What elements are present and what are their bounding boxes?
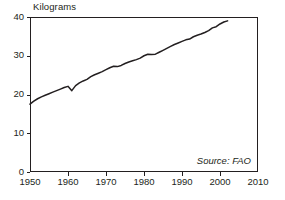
y-tick-mark [27,133,31,134]
x-tick-mark [68,172,69,176]
series-layer [30,17,258,172]
line-chart: Kilograms 010203040 19501960197019801990… [0,0,285,200]
x-tick-label: 1980 [124,176,164,187]
x-tick-label: 2000 [200,176,240,187]
series-line-kilograms [30,21,228,104]
y-tick-label: 20 [0,88,24,99]
x-tick-label: 1950 [10,176,50,187]
y-tick-mark [27,172,31,173]
y-tick-label: 40 [0,11,24,22]
y-tick-mark [27,56,31,57]
y-tick-mark [27,17,31,18]
y-tick-label: 10 [0,127,24,138]
x-tick-mark [220,172,221,176]
x-tick-label: 2010 [238,176,278,187]
x-tick-label: 1960 [48,176,88,187]
x-tick-mark [182,172,183,176]
x-tick-mark [106,172,107,176]
y-axis-title: Kilograms [33,1,76,12]
x-tick-label: 1970 [86,176,126,187]
x-tick-label: 1990 [162,176,202,187]
y-tick-label: 0 [0,166,24,177]
x-tick-mark [144,172,145,176]
source-annotation: Source: FAO [197,155,251,166]
y-tick-mark [27,95,31,96]
y-tick-label: 30 [0,49,24,60]
